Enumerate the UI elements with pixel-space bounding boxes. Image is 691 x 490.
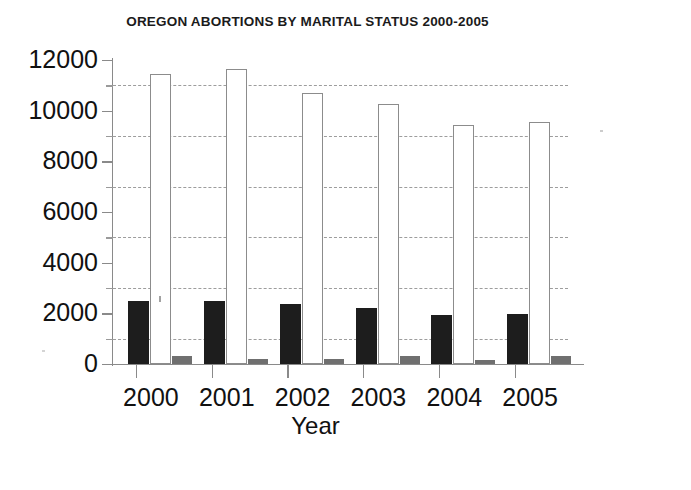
x-axis-tick xyxy=(515,364,516,378)
x-axis-tick xyxy=(363,364,364,378)
bar-married-2002 xyxy=(280,304,301,364)
x-axis-tick xyxy=(439,364,440,378)
y-axis-tick xyxy=(102,60,113,61)
gridline xyxy=(113,85,568,86)
chart-container: OREGON ABORTIONS BY MARITAL STATUS 2000-… xyxy=(0,0,691,490)
gridline xyxy=(113,136,568,137)
y-axis-minor-tick xyxy=(106,85,113,86)
chart-title: OREGON ABORTIONS BY MARITAL STATUS 2000-… xyxy=(0,14,653,29)
bar-married-2005 xyxy=(507,314,528,364)
y-axis-minor-tick xyxy=(106,237,113,238)
gridline xyxy=(113,187,568,188)
scan-speckle xyxy=(42,350,45,352)
bar-unknown-2002 xyxy=(324,359,344,364)
bar-unknown-2005 xyxy=(551,356,571,364)
x-axis-title: Year xyxy=(0,412,661,440)
gridline xyxy=(113,339,568,340)
y-axis-tick-label: 12000 xyxy=(0,47,98,72)
y-axis-tick xyxy=(102,263,113,264)
scan-speckle xyxy=(600,130,603,132)
bar-unmarried-2004 xyxy=(453,125,474,364)
bar-unknown-2000 xyxy=(172,356,192,364)
y-axis-tick xyxy=(102,212,113,213)
gridline xyxy=(113,288,568,289)
y-axis-tick-label: 2000 xyxy=(0,300,98,325)
bar-married-2000 xyxy=(128,301,149,364)
bar-unmarried-2001 xyxy=(226,69,247,364)
y-axis-tick-label: 4000 xyxy=(0,250,98,275)
bar-unknown-2004 xyxy=(475,360,495,364)
gridline xyxy=(113,237,568,238)
bar-unmarried-2000 xyxy=(150,74,171,364)
x-axis-tick xyxy=(212,364,213,378)
y-axis-minor-tick xyxy=(106,187,113,188)
y-axis-minor-tick xyxy=(106,288,113,289)
y-axis-tick-label: 8000 xyxy=(0,148,98,173)
bar-unmarried-2005 xyxy=(529,122,550,364)
bar-unknown-2001 xyxy=(248,359,268,364)
y-axis-tick-label: 0 xyxy=(0,351,98,376)
x-axis-tick xyxy=(287,364,288,378)
bar-married-2001 xyxy=(204,301,225,364)
bar-unmarried-2003 xyxy=(378,104,399,364)
y-axis-tick xyxy=(102,313,113,314)
y-axis-tick-label: 6000 xyxy=(0,199,98,224)
bar-married-2003 xyxy=(356,308,377,364)
x-axis-tick-label: 2005 xyxy=(475,383,585,412)
bar-married-2004 xyxy=(431,315,452,364)
y-axis-tick xyxy=(102,364,113,365)
bar-unmarried-2002 xyxy=(302,93,323,364)
x-axis-tick xyxy=(136,364,137,378)
scan-speckle xyxy=(159,296,161,302)
y-axis-tick xyxy=(102,111,113,112)
y-axis-minor-tick xyxy=(106,136,113,137)
y-axis-tick-label: 10000 xyxy=(0,98,98,123)
plot-area xyxy=(113,60,568,364)
y-axis-minor-tick xyxy=(106,339,113,340)
bar-unknown-2003 xyxy=(400,356,420,364)
y-axis-tick xyxy=(102,161,113,162)
